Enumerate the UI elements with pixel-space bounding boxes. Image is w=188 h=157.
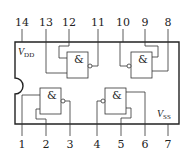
pin-label-11: 11	[91, 16, 105, 29]
gate-d-and-symbol: &	[112, 89, 122, 102]
bottom-pin-leads	[22, 124, 168, 136]
pin-label-7: 7	[165, 138, 172, 151]
pin-label-9: 9	[142, 16, 149, 29]
pin-label-6: 6	[142, 138, 149, 151]
ic-pinout-diagram: 14 13 12 11 10 9 8 1 2 3 4 5 6 7 VDD VSS…	[0, 0, 188, 157]
pin-label-4: 4	[94, 138, 101, 151]
gate-a-and-symbol: &	[74, 53, 84, 66]
pin-label-10: 10	[116, 16, 130, 29]
gate-c-inverter-bubble	[61, 99, 65, 103]
pin-label-8: 8	[165, 16, 172, 29]
pin-label-1: 1	[19, 138, 26, 151]
nand-gate-c: &	[22, 88, 70, 124]
top-pin-labels: 14 13 12 11 10 9 8	[15, 16, 172, 29]
gate-d-inverter-bubble	[101, 99, 105, 103]
nand-gate-d: &	[97, 88, 145, 124]
nand-gate-b: &	[120, 42, 168, 78]
pin-label-3: 3	[67, 138, 74, 151]
pin-label-2: 2	[43, 138, 50, 151]
vdd-label: VDD	[18, 46, 34, 59]
bottom-pin-labels: 1 2 3 4 5 6 7	[19, 138, 172, 151]
gate-a-inverter-bubble	[88, 64, 92, 68]
gate-b-inverter-bubble	[127, 64, 131, 68]
top-pin-leads	[22, 29, 168, 42]
gate-b-and-symbol: &	[138, 53, 148, 66]
vss-label: VSS	[157, 108, 171, 121]
pin-label-14: 14	[15, 16, 29, 29]
gate-c-and-symbol: &	[47, 89, 57, 102]
pin-label-5: 5	[118, 138, 125, 151]
nand-gate-a: &	[46, 42, 98, 78]
pin-label-13: 13	[39, 16, 53, 29]
pin-label-12: 12	[62, 16, 76, 29]
